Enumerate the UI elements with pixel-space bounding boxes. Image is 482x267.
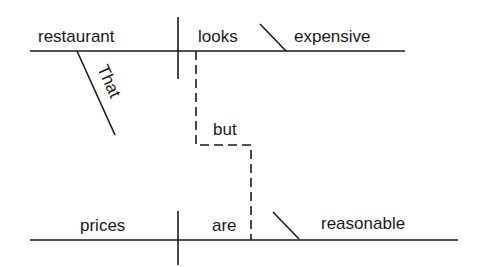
conjunction-word: but <box>213 120 237 139</box>
clause2-verb: are <box>212 216 237 235</box>
clause2-subject: prices <box>80 216 125 235</box>
clause1-complement-slash <box>260 24 286 51</box>
modifier-word: That <box>93 62 124 101</box>
conjunction-dashed-connector <box>196 51 251 240</box>
clause2-complement-slash <box>273 212 299 239</box>
clause1-subject: restaurant <box>38 27 115 46</box>
clause2-complement: reasonable <box>321 214 405 233</box>
clause1-verb: looks <box>198 27 238 46</box>
diagram-svg: restaurant looks expensive That but pric… <box>0 0 482 267</box>
sentence-diagram: restaurant looks expensive That but pric… <box>0 0 482 267</box>
clause1-complement: expensive <box>294 27 371 46</box>
